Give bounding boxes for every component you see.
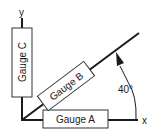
angle-label: 40°: [118, 84, 133, 95]
y-axis-label: y: [19, 7, 24, 18]
gauge-a: Gauge A: [43, 110, 108, 128]
x-axis-label: x: [142, 115, 147, 126]
angle-arrowhead: [116, 52, 124, 66]
gauge-c-label: Gauge C: [17, 42, 28, 82]
gauge-a-label: Gauge A: [56, 114, 95, 125]
gauge-c: Gauge C: [12, 28, 32, 97]
strain-gauge-rosette-diagram: y x Gauge C Gauge A Gauge B 40°: [0, 0, 154, 137]
gauge-b: Gauge B: [37, 61, 94, 110]
